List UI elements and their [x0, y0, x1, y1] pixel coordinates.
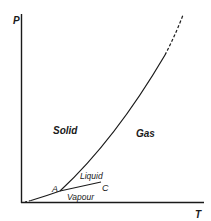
- y-axis-label: P: [13, 15, 20, 26]
- vapour-region-label: Vapour: [67, 192, 95, 202]
- gas-region-label: Gas: [136, 128, 155, 139]
- sublimation-curve-dashed: [25, 201, 31, 203]
- x-axis-label: T: [195, 209, 202, 220]
- solid-region-label: Solid: [53, 125, 78, 136]
- melting-curve-dashed: [165, 15, 183, 55]
- melting-curve: [60, 55, 165, 191]
- triple-point-label: A: [51, 184, 58, 194]
- vaporization-curve: [60, 182, 101, 191]
- liquid-region-label: Liquid: [80, 171, 103, 181]
- phase-diagram: P T Solid Gas Liquid Vapour A C: [0, 0, 211, 221]
- critical-point-label: C: [102, 183, 109, 193]
